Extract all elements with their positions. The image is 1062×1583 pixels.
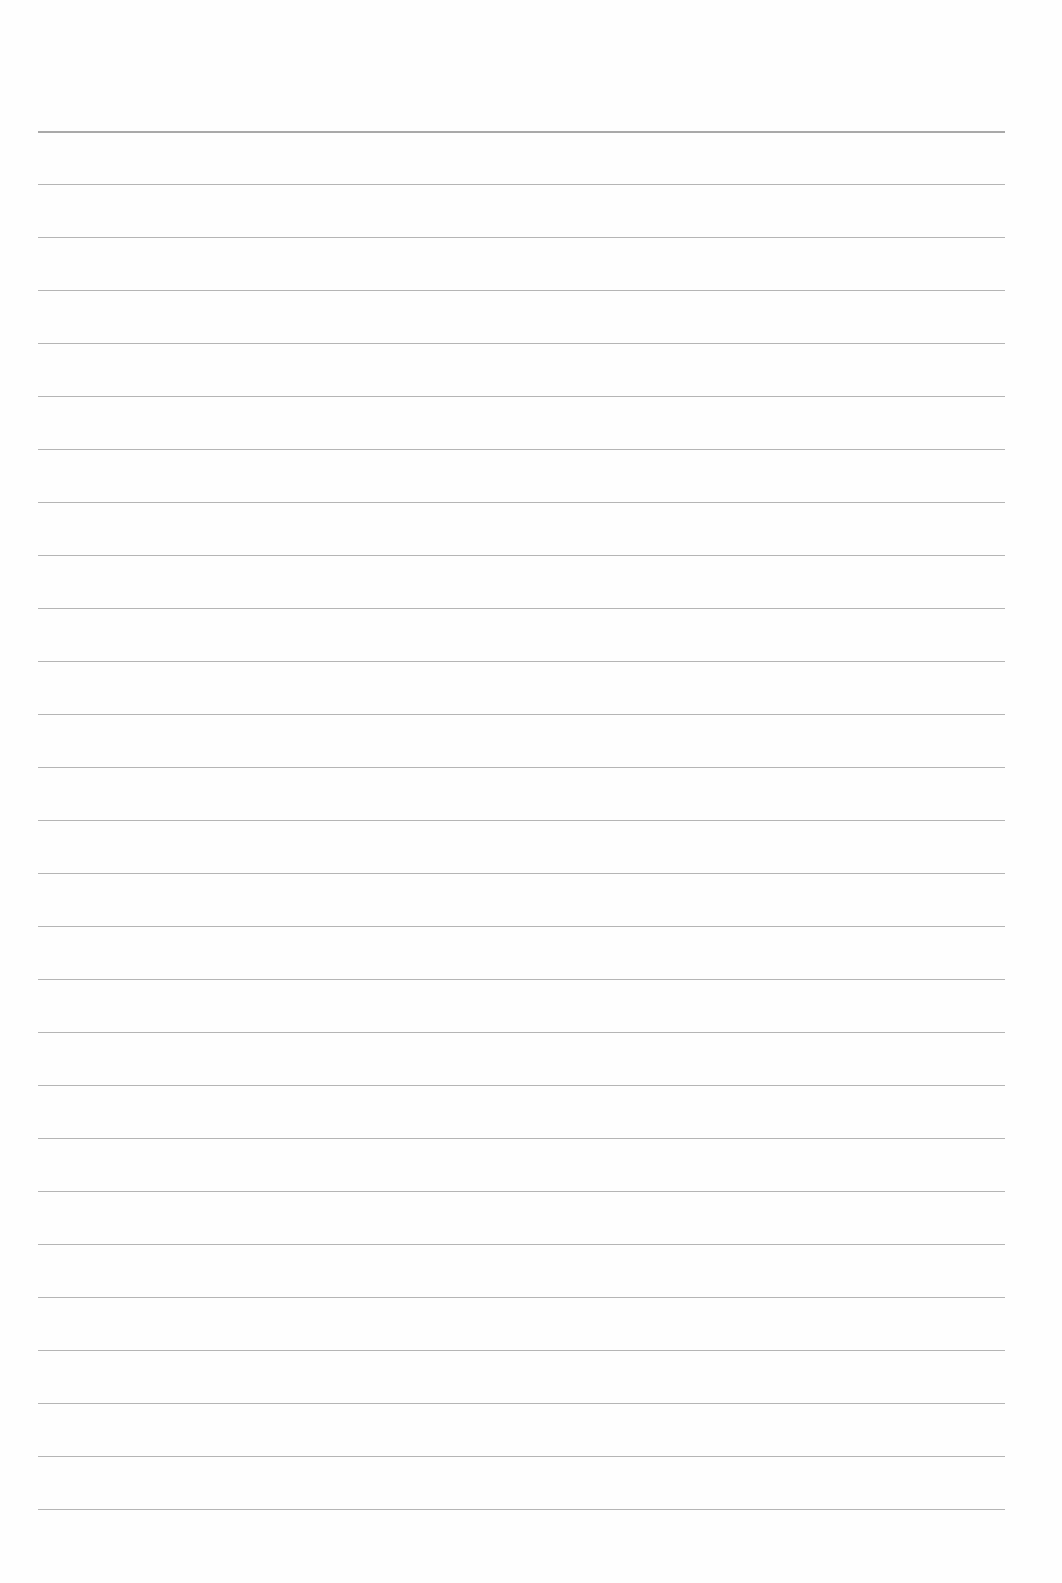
ruled-line xyxy=(38,343,1005,344)
ruled-line xyxy=(38,979,1005,980)
ruled-line xyxy=(38,290,1005,291)
ruled-line xyxy=(38,1244,1005,1245)
ruled-line xyxy=(38,714,1005,715)
ruled-line xyxy=(38,1350,1005,1351)
ruled-line xyxy=(38,767,1005,768)
ruled-line xyxy=(38,502,1005,503)
ruled-line xyxy=(38,396,1005,397)
ruled-line xyxy=(38,1456,1005,1457)
lined-paper-page xyxy=(0,0,1062,1583)
ruled-line xyxy=(38,131,1005,133)
ruled-line xyxy=(38,1191,1005,1192)
ruled-line xyxy=(38,661,1005,662)
ruled-line xyxy=(38,1509,1005,1510)
ruled-line xyxy=(38,1297,1005,1298)
ruled-line xyxy=(38,1032,1005,1033)
ruled-line xyxy=(38,1138,1005,1139)
ruled-line xyxy=(38,608,1005,609)
ruled-line xyxy=(38,820,1005,821)
ruled-line xyxy=(38,449,1005,450)
ruled-line xyxy=(38,184,1005,185)
ruled-line xyxy=(38,926,1005,927)
ruled-line xyxy=(38,1403,1005,1404)
ruled-line xyxy=(38,1085,1005,1086)
ruled-line xyxy=(38,555,1005,556)
ruled-line xyxy=(38,237,1005,238)
ruled-line xyxy=(38,873,1005,874)
